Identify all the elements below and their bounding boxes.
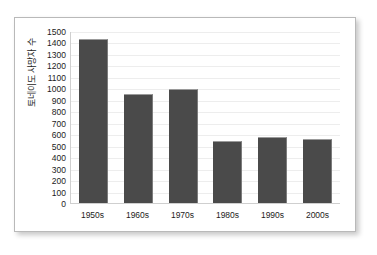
y-axis-tick-label: 800 — [34, 108, 66, 117]
bar-1970s[interactable] — [169, 89, 198, 203]
y-axis-tick-label: 1100 — [34, 74, 66, 83]
bar-slot — [116, 32, 161, 203]
bar-1960s[interactable] — [124, 94, 153, 203]
y-axis-tick-label: 400 — [34, 154, 66, 163]
y-axis-tick-label: 1500 — [34, 28, 66, 37]
y-axis-tick-label: 500 — [34, 142, 66, 151]
y-axis-tick-label: 0 — [34, 200, 66, 209]
bar-slot — [161, 32, 206, 203]
y-axis-tick-label: 300 — [34, 165, 66, 174]
x-axis-tick-label: 1960s — [115, 210, 160, 220]
y-axis-tick-labels: 0100200300400500600700800900100011001200… — [34, 32, 66, 204]
bar-series — [71, 32, 340, 203]
y-axis-tick-label: 1400 — [34, 39, 66, 48]
plot-area — [70, 32, 340, 204]
y-axis-tick-label: 1300 — [34, 51, 66, 60]
chart-card: 토네이도 사망자 수 01002003004005006007008009001… — [14, 17, 356, 232]
bar-1980s[interactable] — [213, 141, 242, 203]
y-axis-tick-label: 200 — [34, 177, 66, 186]
y-axis-tick-label: 900 — [34, 97, 66, 106]
y-axis-tick-label: 600 — [34, 131, 66, 140]
bar-slot — [71, 32, 116, 203]
bar-2000s[interactable] — [303, 139, 332, 203]
y-axis-tick-label: 1200 — [34, 62, 66, 71]
x-axis-tick-label: 1950s — [70, 210, 115, 220]
y-axis-tick-label: 700 — [34, 119, 66, 128]
bar-slot — [250, 32, 295, 203]
x-axis-tick-labels: 1950s1960s1970s1980s1990s2000s — [70, 210, 340, 220]
bar-1950s[interactable] — [79, 39, 108, 203]
x-axis-tick-label: 2000s — [295, 210, 340, 220]
x-axis-tick-label: 1980s — [205, 210, 250, 220]
bar-slot — [206, 32, 251, 203]
x-axis-tick-label: 1990s — [250, 210, 295, 220]
bar-1990s[interactable] — [258, 137, 287, 203]
x-axis-tick-label: 1970s — [160, 210, 205, 220]
bar-slot — [295, 32, 340, 203]
y-axis-tick-label: 1000 — [34, 85, 66, 94]
y-axis-tick-label: 100 — [34, 188, 66, 197]
